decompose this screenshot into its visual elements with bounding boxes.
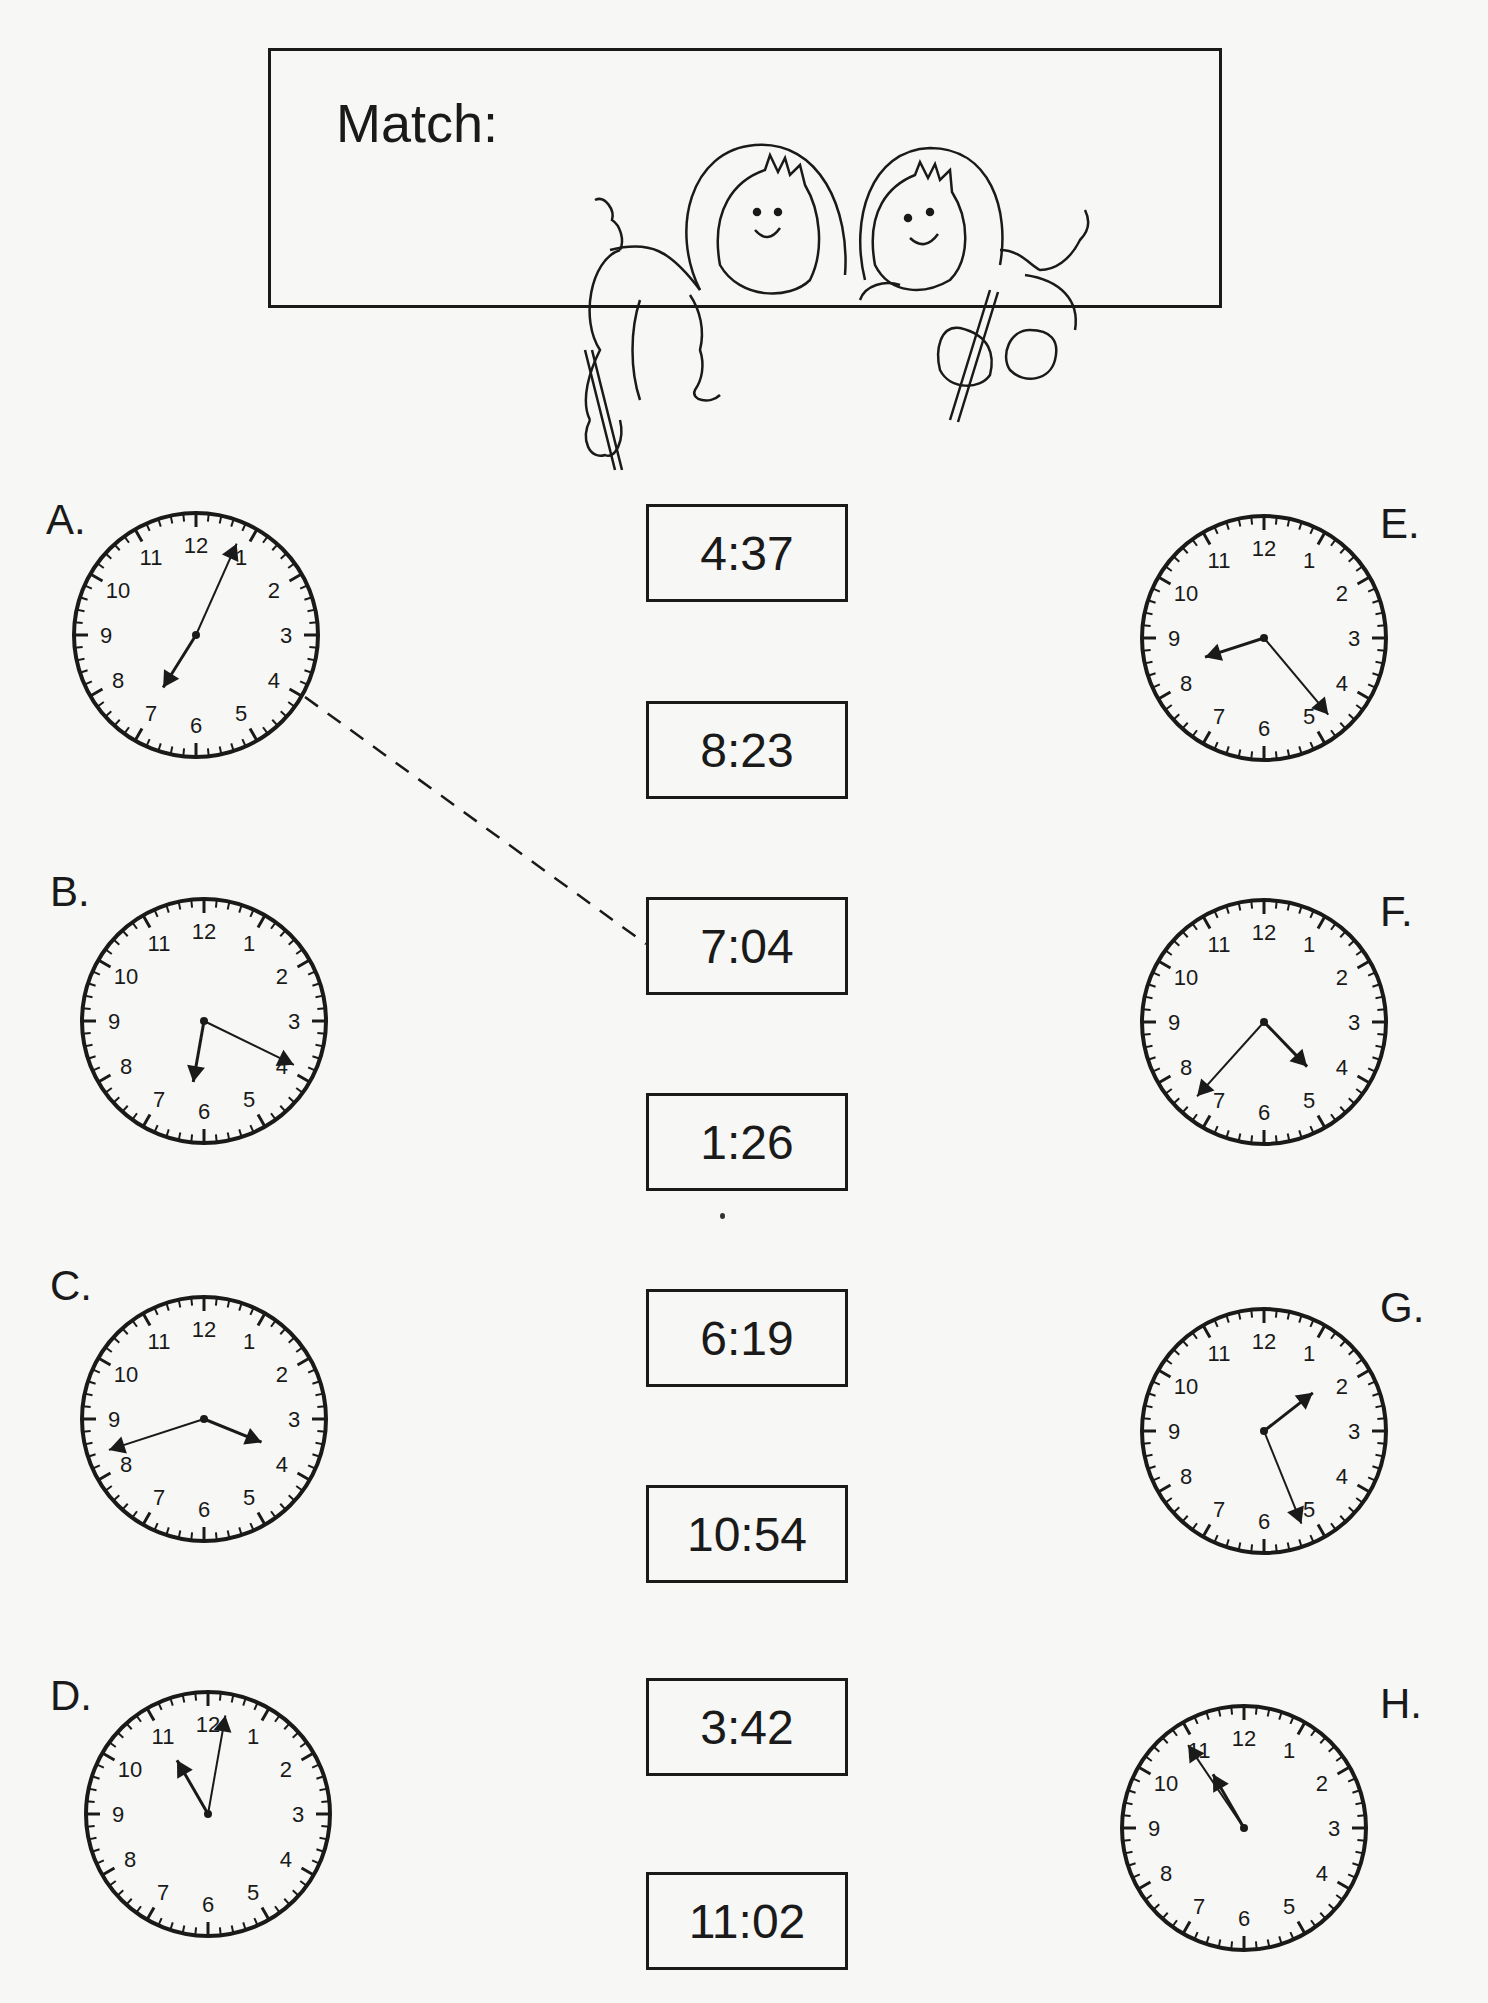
minute-hand-icon [1188,1745,1244,1828]
clock-numeral: 2 [276,1362,288,1387]
clock-numeral: 9 [112,1802,124,1827]
clock-numeral: 4 [276,1452,288,1477]
clock-numeral: 6 [1258,716,1270,741]
clock-h[interactable]: 123456789101112 [1116,1700,1372,1956]
clock-numeral: 6 [202,1892,214,1917]
hour-hand-icon [1205,638,1264,661]
clock-numeral: 1 [247,1724,259,1749]
clock-b[interactable]: 123456789101112 [76,893,332,1149]
clock-numeral: 1 [1283,1738,1295,1763]
clock-numeral: 3 [1348,1010,1360,1035]
clock-numeral: 4 [1336,671,1348,696]
time-box-619[interactable]: 6:19 [646,1289,848,1387]
clock-numeral: 4 [1336,1464,1348,1489]
minute-hand-icon [1197,1022,1264,1096]
clock-numeral: 5 [243,1485,255,1510]
clock-numeral: 4 [1336,1055,1348,1080]
clock-numeral: 8 [124,1847,136,1872]
clock-numeral: 2 [1336,965,1348,990]
clock-numeral: 1 [1303,1341,1315,1366]
clock-numeral: 6 [1238,1906,1250,1931]
clock-numeral: 9 [100,623,112,648]
clock-numeral: 6 [198,1099,210,1124]
clock-numeral: 5 [1283,1894,1295,1919]
clock-numeral: 7 [153,1485,165,1510]
clock-numeral: 2 [268,578,280,603]
clock-c[interactable]: 123456789101112 [76,1291,332,1547]
time-box-823[interactable]: 8:23 [646,701,848,799]
clock-numeral: 5 [247,1880,259,1905]
time-box-704[interactable]: 7:04 [646,897,848,995]
clock-numeral: 6 [1258,1100,1270,1125]
clock-numeral: 11 [1208,932,1231,957]
clock-numeral: 3 [288,1407,300,1432]
clock-e[interactable]: 123456789101112 [1136,510,1392,766]
clock-numeral: 11 [148,931,171,956]
clock-numeral: 4 [280,1847,292,1872]
clock-numeral: 10 [1174,965,1198,990]
hour-hand-icon [1264,1022,1307,1067]
clock-numeral: 8 [112,668,124,693]
clock-numeral: 8 [1180,671,1192,696]
clock-numeral: 3 [292,1802,304,1827]
clock-numeral: 12 [196,1712,220,1737]
clock-numeral: 12 [1252,920,1276,945]
clock-numeral: 8 [1160,1861,1172,1886]
clock-numeral: 11 [140,545,163,570]
clock-numeral: 1 [243,1329,255,1354]
hour-hand-icon [177,1760,208,1814]
clock-numeral: 3 [1348,626,1360,651]
clock-numeral: 2 [1336,581,1348,606]
clock-d[interactable]: 123456789101112 [80,1686,336,1942]
clock-numeral: 3 [288,1009,300,1034]
clock-numeral: 9 [108,1009,120,1034]
clock-numeral: 1 [1303,932,1315,957]
clock-numeral: 2 [276,964,288,989]
clock-numeral: 4 [268,668,280,693]
clock-numeral: 12 [1232,1726,1256,1751]
clock-a[interactable]: 123456789101112 [68,507,324,763]
clock-numeral: 12 [1252,536,1276,561]
clock-numeral: 6 [190,713,202,738]
clock-numeral: 10 [114,1362,138,1387]
clock-numeral: 10 [1174,581,1198,606]
clock-numeral: 2 [1316,1771,1328,1796]
clock-numeral: 8 [1180,1464,1192,1489]
hour-hand-icon [163,635,196,688]
time-box-1054[interactable]: 10:54 [646,1485,848,1583]
clock-numeral: 9 [1168,1010,1180,1035]
time-box-1102[interactable]: 11:02 [646,1872,848,1970]
clock-numeral: 10 [118,1757,142,1782]
clock-numeral: 8 [120,1452,132,1477]
clock-numeral: 8 [1180,1055,1192,1080]
clock-numeral: 5 [1303,1088,1315,1113]
clock-numeral: 1 [243,931,255,956]
time-box-126[interactable]: 1:26 [646,1093,848,1191]
clock-numeral: 9 [1168,626,1180,651]
clock-numeral: 9 [108,1407,120,1432]
clock-numeral: 7 [1213,1497,1225,1522]
time-box-437[interactable]: 4:37 [646,504,848,602]
clock-numeral: 7 [153,1087,165,1112]
clock-numeral: 7 [1213,1088,1225,1113]
clock-numeral: 11 [1208,1341,1231,1366]
clock-numeral: 7 [1193,1894,1205,1919]
time-box-342[interactable]: 3:42 [646,1678,848,1776]
clock-f[interactable]: 123456789101112 [1136,894,1392,1150]
clock-g[interactable]: 123456789101112 [1136,1303,1392,1559]
clock-numeral: 1 [1303,548,1315,573]
clock-numeral: 10 [106,578,130,603]
clock-numeral: 2 [280,1757,292,1782]
hour-hand-icon [204,1419,261,1445]
clock-numeral: 12 [1252,1329,1276,1354]
clock-numeral: 12 [192,919,216,944]
clock-numeral: 11 [1208,548,1231,573]
clock-numeral: 2 [1336,1374,1348,1399]
clock-numeral: 3 [1328,1816,1340,1841]
clock-numeral: 10 [114,964,138,989]
minute-hand-icon [109,1419,204,1454]
clock-numeral: 11 [152,1724,175,1749]
clock-numeral: 3 [280,623,292,648]
clock-numeral: 7 [145,701,157,726]
clock-numeral: 5 [235,701,247,726]
